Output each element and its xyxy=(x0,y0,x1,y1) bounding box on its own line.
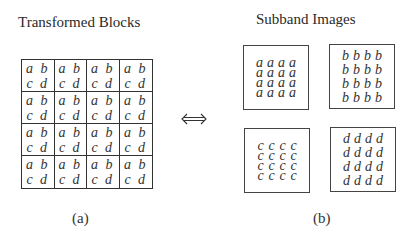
block-cell-top: a b xyxy=(59,125,83,140)
block-cell: a bc d xyxy=(55,124,88,156)
subband-letter: b xyxy=(373,91,384,105)
block-cell-top: a b xyxy=(26,125,50,140)
subband-letter: d xyxy=(352,132,363,146)
subband-letter: a xyxy=(265,88,276,98)
block-cell: a bc d xyxy=(55,60,88,92)
subband-letter: d xyxy=(341,160,352,174)
block-cell-top: a b xyxy=(124,125,148,140)
block-cell: a bc d xyxy=(22,92,55,124)
panel-a-caption: (a) xyxy=(72,210,89,227)
block-cell: a bc d xyxy=(55,92,88,124)
block-cell-bottom: c d xyxy=(91,76,114,91)
subband-letter: d xyxy=(374,132,385,146)
block-cell-bottom: c d xyxy=(91,172,114,187)
block-cell: a bc d xyxy=(87,60,120,92)
block-cell: a bc d xyxy=(87,124,120,156)
subband-letter: d xyxy=(363,146,374,160)
subband-letter: d xyxy=(374,146,385,160)
subband-letter: d xyxy=(363,160,374,174)
subband-letter: d xyxy=(363,132,374,146)
block-cell-bottom: c d xyxy=(124,172,147,187)
block-cell-top: a b xyxy=(26,93,50,108)
block-cell-top: a b xyxy=(91,61,115,76)
double-arrow-icon xyxy=(180,110,208,128)
subband-letter: d xyxy=(374,174,385,188)
subband-letter: b xyxy=(351,49,362,63)
block-cell: a bc d xyxy=(120,60,153,92)
block-cell: a bc d xyxy=(87,92,120,124)
block-cell-bottom: c d xyxy=(91,140,114,155)
block-cell-bottom: c d xyxy=(26,172,49,187)
subband-letter: b xyxy=(362,91,373,105)
subband-letter: b xyxy=(340,91,351,105)
block-cell-top: a b xyxy=(91,93,115,108)
block-cell-bottom: c d xyxy=(26,140,49,155)
block-cell-top: a b xyxy=(26,157,50,172)
subband-letter: a xyxy=(254,88,265,98)
block-cell-bottom: c d xyxy=(26,108,49,123)
subband-letter: d xyxy=(341,174,352,188)
block-cell-bottom: c d xyxy=(124,140,147,155)
subband-letter: d xyxy=(352,160,363,174)
block-cell-bottom: c d xyxy=(59,76,82,91)
subband-letter: c xyxy=(288,171,299,181)
block-cell: a bc d xyxy=(87,156,120,188)
subband-letter: d xyxy=(363,174,374,188)
block-cell: a bc d xyxy=(22,60,55,92)
subband-d-grid: dddddddddddddddd xyxy=(341,132,385,188)
subband-letter: d xyxy=(341,146,352,160)
panel-a-title: Transformed Blocks xyxy=(18,14,140,31)
block-cell-top: a b xyxy=(124,93,148,108)
subband-letter: d xyxy=(341,132,352,146)
block-cell-bottom: c d xyxy=(59,140,82,155)
panel-b-caption: (b) xyxy=(313,210,331,227)
block-cell: a bc d xyxy=(120,124,153,156)
subband-letter: b xyxy=(373,77,384,91)
block-cell-top: a b xyxy=(124,157,148,172)
block-cell-top: a b xyxy=(124,61,148,76)
subband-letter: b xyxy=(362,63,373,77)
block-cell-top: a b xyxy=(59,157,83,172)
block-cell-bottom: c d xyxy=(59,108,82,123)
block-cell: a bc d xyxy=(22,124,55,156)
subband-letter: a xyxy=(276,88,287,98)
subband-letter: a xyxy=(287,88,298,98)
block-cell: a bc d xyxy=(55,156,88,188)
subband-letter: b xyxy=(340,49,351,63)
subband-letter: d xyxy=(374,160,385,174)
subband-d: dddddddddddddddd xyxy=(330,127,396,192)
subband-letter: c xyxy=(266,171,277,181)
block-cell: a bc d xyxy=(120,92,153,124)
subband-letter: b xyxy=(373,63,384,77)
subband-letter: b xyxy=(340,63,351,77)
subband-letter: b xyxy=(351,91,362,105)
block-cell-top: a b xyxy=(91,125,115,140)
block-cell-bottom: c d xyxy=(59,172,82,187)
block-cell-top: a b xyxy=(59,93,83,108)
subband-a: aaaaaaaaaaaaaaaa xyxy=(243,45,309,110)
subband-letter: d xyxy=(352,174,363,188)
block-cell: a bc d xyxy=(22,156,55,188)
panel-b-title: Subband Images xyxy=(256,11,356,28)
block-cell-top: a b xyxy=(91,157,115,172)
subband-letter: b xyxy=(351,63,362,77)
subband-c-grid: cccccccccccccccc xyxy=(255,141,299,181)
block-cell-bottom: c d xyxy=(124,108,147,123)
subband-letter: b xyxy=(362,49,373,63)
subband-letter: b xyxy=(362,77,373,91)
subband-letter: c xyxy=(255,171,266,181)
subband-letter: b xyxy=(340,77,351,91)
subband-letter: b xyxy=(351,77,362,91)
subband-letter: d xyxy=(352,146,363,160)
subband-a-grid: aaaaaaaaaaaaaaaa xyxy=(254,58,298,98)
subband-letter: c xyxy=(277,171,288,181)
block-cell-bottom: c d xyxy=(124,76,147,91)
transformed-blocks-grid: a bc da bc da bc da bc da bc da bc da bc… xyxy=(21,59,153,189)
block-cell-bottom: c d xyxy=(91,108,114,123)
subband-b-grid: bbbbbbbbbbbbbbbb xyxy=(340,49,384,105)
block-cell-top: a b xyxy=(59,61,83,76)
block-cell-bottom: c d xyxy=(26,76,49,91)
subband-letter: b xyxy=(373,49,384,63)
subband-b: bbbbbbbbbbbbbbbb xyxy=(329,44,395,109)
block-cell: a bc d xyxy=(120,156,153,188)
